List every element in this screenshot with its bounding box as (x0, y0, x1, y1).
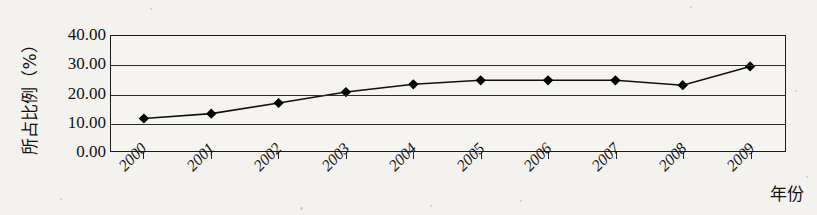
data-point-marker (745, 61, 755, 71)
series-polyline (144, 66, 750, 118)
line-chart: 所占比例（%） 0.0010.0020.0030.0040.00 2000200… (0, 0, 817, 215)
y-tick-label: 30.00 (42, 55, 106, 72)
data-point-marker (341, 87, 351, 97)
data-point-marker (678, 80, 688, 90)
data-point-marker (139, 113, 149, 123)
y-tick-label: 10.00 (42, 114, 106, 131)
scan-speck (520, 200, 522, 202)
scan-speck (60, 198, 62, 200)
scan-speck (150, 8, 152, 10)
gridline (111, 95, 785, 96)
x-axis-tick-labels: 2000200120022003200420052006200720082009 (110, 152, 786, 215)
data-series-line (111, 36, 785, 151)
plot-area (110, 35, 786, 152)
data-point-marker (610, 75, 620, 85)
scan-speck (430, 205, 432, 207)
scan-speck (806, 176, 808, 178)
data-point-marker (408, 79, 418, 89)
gridline (111, 65, 785, 66)
scan-speck (795, 90, 797, 92)
gridline (111, 124, 785, 125)
data-point-marker (206, 109, 216, 119)
data-point-marker (273, 98, 283, 108)
y-tick-label: 40.00 (42, 26, 106, 43)
scan-speck (690, 6, 692, 8)
y-tick-label: 20.00 (42, 85, 106, 102)
data-point-marker (543, 75, 553, 85)
y-tick-label: 0.00 (42, 143, 106, 160)
x-axis-title: 年份 (770, 180, 804, 205)
y-axis-tick-labels: 0.0010.0020.0030.0040.00 (40, 0, 106, 215)
scan-speck (300, 207, 303, 210)
data-point-marker (475, 75, 485, 85)
y-axis-title: 所占比例（%） (16, 21, 41, 171)
